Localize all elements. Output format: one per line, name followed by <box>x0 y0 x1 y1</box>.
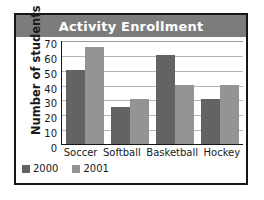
y-axis-tick-label: 50 <box>44 70 57 80</box>
legend-entry-2000[interactable]: 2000 <box>22 163 58 174</box>
bar-2000-basketball[interactable] <box>156 55 175 144</box>
x-axis-label-hockey: Hockey <box>204 147 241 161</box>
bar-group <box>111 41 149 144</box>
y-axis-tick-label: 10 <box>44 129 57 139</box>
bar-group <box>156 41 194 144</box>
x-axis-label-basketball: Basketball <box>146 147 198 161</box>
y-axis-tick-label: 60 <box>44 55 57 65</box>
legend-swatch-icon <box>22 165 30 173</box>
plot-area <box>61 41 243 145</box>
y-axis-tick-labels: 706050403020100 <box>38 41 57 145</box>
y-axis-tick-label: 70 <box>44 40 57 50</box>
y-axis-tick-label: 0 <box>51 144 57 154</box>
y-axis-tick-label: 30 <box>44 99 57 109</box>
legend-label: 2001 <box>83 163 108 174</box>
bar-2000-hockey[interactable] <box>201 99 220 144</box>
chart-title-banner: Activity Enrollment <box>16 15 246 37</box>
x-axis-category-labels: SoccerSoftballBasketballHockey <box>61 147 243 161</box>
bar-group <box>66 41 104 144</box>
bar-2001-basketball[interactable] <box>175 85 194 144</box>
chart-card: Activity Enrollment Number of students 7… <box>14 13 248 185</box>
bar-2000-soccer[interactable] <box>66 70 85 144</box>
y-axis-tick-label: 40 <box>44 85 57 95</box>
bar-2001-soccer[interactable] <box>85 47 104 144</box>
legend-label: 2000 <box>33 163 58 174</box>
chart-title: Activity Enrollment <box>59 19 204 34</box>
bar-group <box>201 41 239 144</box>
chart-body: Number of students 706050403020100 Socce… <box>16 37 246 183</box>
bars-layer <box>62 41 243 144</box>
legend-entry-2001[interactable]: 2001 <box>72 163 108 174</box>
bar-2001-hockey[interactable] <box>220 85 239 144</box>
y-axis-tick-label: 20 <box>44 114 57 124</box>
x-axis-label-softball: Softball <box>103 147 141 161</box>
bar-2000-softball[interactable] <box>111 107 130 144</box>
chart-legend: 20002001 <box>22 163 109 174</box>
x-axis-label-soccer: Soccer <box>64 147 98 161</box>
bar-2001-softball[interactable] <box>130 99 149 144</box>
legend-swatch-icon <box>72 165 80 173</box>
